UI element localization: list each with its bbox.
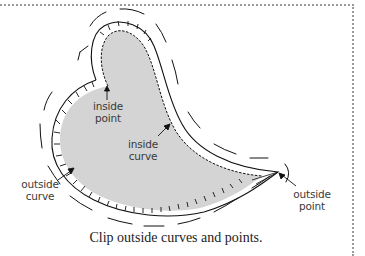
paisley-seam-diagram	[0, 0, 365, 256]
label-outside-point: outside point	[290, 188, 334, 212]
label-line: inside	[90, 100, 126, 112]
figure-caption: Clip outside curves and points.	[0, 230, 352, 246]
label-line: curve	[124, 150, 162, 162]
label-line: inside	[124, 138, 162, 150]
label-line: outside	[20, 178, 60, 190]
label-outside-curve: outside curve	[20, 178, 60, 202]
label-line: curve	[20, 190, 60, 202]
label-line: outside	[290, 188, 334, 200]
label-line: point	[290, 200, 334, 212]
label-line: point	[90, 112, 126, 124]
label-inside-point: inside point	[90, 100, 126, 124]
label-inside-curve: inside curve	[124, 138, 162, 162]
